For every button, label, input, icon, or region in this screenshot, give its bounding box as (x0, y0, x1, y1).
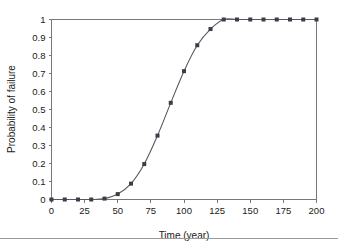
data-point-marker (209, 27, 213, 31)
data-point-marker (315, 18, 319, 22)
data-point-marker (222, 18, 226, 22)
data-point-marker (301, 18, 305, 22)
data-point-marker (63, 198, 67, 202)
x-axis-title: Time (year) (159, 230, 210, 241)
probability-of-failure-chart: 00.10.20.30.40.50.60.70.80.91 0255075100… (0, 0, 338, 250)
series-line (52, 19, 317, 200)
data-point-marker (103, 197, 107, 201)
y-tick-label: 0.6 (32, 86, 45, 97)
data-series-probability-of-failure (50, 18, 319, 202)
y-axis-title: Probability of failure (6, 65, 17, 153)
y-tick-label: 0.3 (32, 140, 45, 151)
x-tick-label: 150 (242, 205, 258, 216)
data-point-marker (142, 162, 146, 166)
y-tick-label: 0.2 (32, 158, 45, 169)
x-tick-label: 100 (176, 205, 192, 216)
y-tick-label: 0.8 (32, 50, 45, 61)
data-point-marker (275, 18, 279, 22)
data-point-marker (182, 69, 186, 73)
x-tick-label: 175 (275, 205, 291, 216)
x-tick-label: 50 (112, 205, 123, 216)
data-point-marker (195, 43, 199, 47)
x-tick-label: 75 (146, 205, 157, 216)
x-tick-label: 200 (309, 205, 325, 216)
y-tick-label: 0.7 (32, 68, 45, 79)
data-point-marker (169, 101, 173, 105)
figure-container: 00.10.20.30.40.50.60.70.80.91 0255075100… (0, 0, 338, 250)
x-tick-label: 25 (79, 205, 90, 216)
x-tick-label: 125 (209, 205, 225, 216)
data-point-marker (116, 192, 120, 196)
data-point-marker (129, 182, 133, 186)
y-tick-label: 0.1 (32, 176, 45, 187)
x-axis-tick-labels: 0255075100125150175200 (49, 205, 325, 216)
data-point-marker (156, 134, 160, 138)
data-point-marker (89, 198, 93, 202)
y-axis-tick-labels: 00.10.20.30.40.50.60.70.80.91 (32, 14, 45, 205)
data-point-marker (235, 18, 239, 22)
data-point-marker (76, 198, 80, 202)
y-tick-label: 0 (40, 194, 45, 205)
plot-frame (52, 20, 317, 200)
data-point-marker (248, 18, 252, 22)
series-markers (50, 18, 319, 202)
y-tick-label: 0.5 (32, 104, 45, 115)
y-tick-label: 0.4 (32, 122, 45, 133)
y-tick-label: 1 (40, 14, 45, 25)
footer-divider (0, 238, 338, 239)
data-point-marker (262, 18, 266, 22)
data-point-marker (50, 198, 54, 202)
data-point-marker (288, 18, 292, 22)
x-tick-label: 0 (49, 205, 54, 216)
y-tick-label: 0.9 (32, 32, 45, 43)
